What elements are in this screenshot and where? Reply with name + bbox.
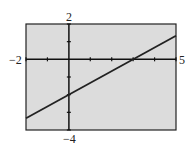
graph-window bbox=[0, 0, 193, 152]
x-min-label: −2 bbox=[9, 54, 22, 66]
y-min-label: −4 bbox=[63, 133, 76, 145]
x-max-label: 5 bbox=[179, 54, 185, 66]
y-max-label: 2 bbox=[66, 11, 72, 23]
